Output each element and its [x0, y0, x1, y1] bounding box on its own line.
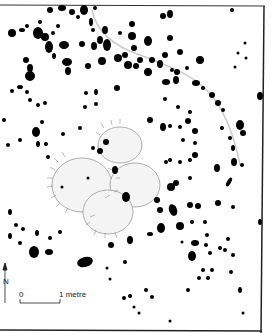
site-plan: N 0 1 metre	[0, 0, 272, 333]
north-label: N	[3, 277, 9, 286]
scale-end-label: 1 metre	[59, 290, 86, 299]
pit-north	[98, 127, 142, 163]
right-border	[261, 6, 264, 333]
scale-start-label: 0	[19, 290, 23, 299]
scale-bar	[20, 299, 60, 303]
top-border	[0, 5, 265, 6]
bottom-border	[0, 330, 262, 331]
plan-drawing	[0, 0, 272, 333]
